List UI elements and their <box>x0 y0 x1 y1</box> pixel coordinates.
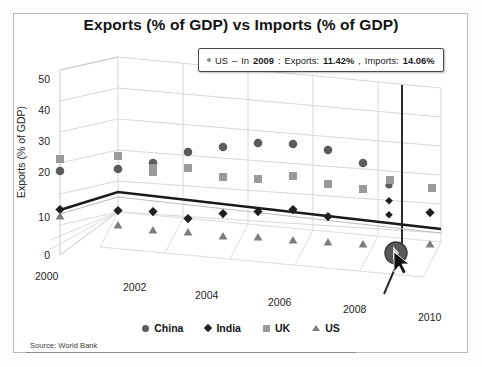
tooltip-exports-value: 11.42% <box>323 55 354 66</box>
triangle-marker-icon <box>312 325 320 331</box>
legend-item-us[interactable]: US <box>312 322 340 334</box>
source-divider <box>26 352 356 353</box>
x-tick-2004: 2004 <box>195 289 218 301</box>
tooltip-separator: – <box>232 55 237 66</box>
series-china-markers <box>56 139 393 189</box>
tooltip-marker-dot <box>207 58 211 62</box>
y-tick-40: 40 <box>24 104 50 116</box>
chart-screenshot: Exports (% of GDP) vs Imports (% of GDP) <box>0 0 482 367</box>
circle-marker-icon <box>142 325 149 332</box>
tooltip-country: US <box>215 55 228 66</box>
tooltip-exports-label: Exports: <box>285 55 319 66</box>
x-tick-2002: 2002 <box>123 281 146 293</box>
chart-legend: China India UK US <box>0 322 482 334</box>
y-tick-10: 10 <box>24 211 50 223</box>
legend-label-india: India <box>216 322 241 334</box>
source-note: Source: World Bank <box>30 341 97 350</box>
y-tick-20: 20 <box>24 166 50 178</box>
tooltip-comma: , <box>358 55 361 66</box>
data-point-tooltip: US – In 2009: Exports: 11.42%, Imports: … <box>198 48 444 72</box>
x-tick-2006: 2006 <box>268 296 291 308</box>
tooltip-imports-value: 14.06% <box>403 55 435 66</box>
legend-item-china[interactable]: China <box>142 322 183 334</box>
legend-item-india[interactable]: India <box>205 322 241 334</box>
legend-label-uk: UK <box>275 322 290 334</box>
legend-label-us: US <box>325 322 340 334</box>
grid-vertical <box>118 57 441 242</box>
tooltip-year: 2009 <box>253 55 274 66</box>
x-tick-2008: 2008 <box>343 303 366 315</box>
legend-label-china: China <box>154 322 183 334</box>
tooltip-colon: : <box>278 55 281 66</box>
y-tick-50: 50 <box>24 73 50 85</box>
tooltip-imports-label: Imports: <box>365 55 399 66</box>
y-tick-0: 0 <box>24 249 50 261</box>
tooltip-in-label: In <box>241 55 249 66</box>
square-marker-icon <box>263 325 270 332</box>
series-uk-markers <box>56 152 436 193</box>
y-tick-30: 30 <box>24 135 50 147</box>
diamond-marker-icon <box>204 324 212 332</box>
legend-item-uk[interactable]: UK <box>263 322 290 334</box>
x-tick-2000: 2000 <box>35 270 58 282</box>
